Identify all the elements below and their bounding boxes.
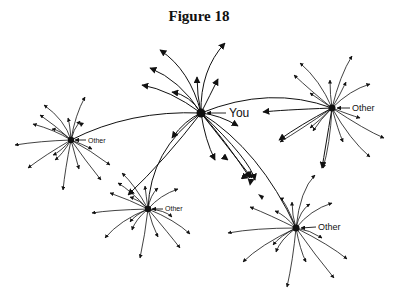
nodes	[68, 105, 336, 232]
network-diagram: You Other Other Other Other	[0, 0, 398, 303]
other-left-label: Other	[88, 137, 106, 144]
other-bottom-right-node	[293, 225, 300, 232]
other-bottom-right-label: Other	[318, 222, 341, 232]
other-bottom-left-node	[145, 206, 151, 212]
other-bottom-left-rays	[92, 173, 190, 258]
you-label: You	[229, 106, 249, 120]
other-bottom-left-label: Other	[165, 205, 183, 212]
stray-arrowheads	[79, 122, 264, 200]
other-right-node	[329, 105, 336, 112]
other-right-label: Other	[352, 103, 375, 113]
other-left-node	[68, 137, 74, 143]
you-node	[197, 109, 206, 118]
